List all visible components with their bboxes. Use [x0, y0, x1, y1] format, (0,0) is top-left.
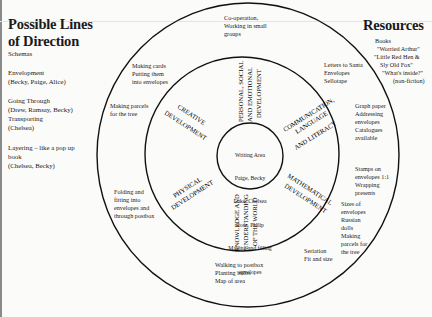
- centre-line: Making and filling: [220, 245, 280, 253]
- note-cll-top: Letters to Santa Envelopes Sellotape: [324, 61, 363, 85]
- centre-line: Luke, Chelsea: [220, 198, 280, 206]
- svg-text:DEVELOPMENT: DEVELOPMENT: [255, 69, 262, 118]
- note-kuw: Walking to postbox Planting bulbs Map of…: [215, 261, 263, 285]
- svg-text:PERSONAL, SOCIAL: PERSONAL, SOCIAL: [237, 61, 244, 122]
- area-pse-label: PERSONAL, SOCIAL AND EMOTIONAL DEVELOPME…: [237, 61, 262, 122]
- area-creative-label: CREATIVE DEVELOPMENT: [163, 103, 208, 141]
- note-math-side: Sizes of envelopes Russian dolls Making …: [341, 200, 367, 256]
- centre-line: Writing Area: [220, 152, 280, 160]
- note-pse: Co-operation, Working in small groups: [224, 14, 267, 38]
- area-cll-label: COMMUNICATION, LANGUAGE AND LITERACY: [282, 96, 338, 151]
- area-math-label: MATHEMATICAL DEVELOPMENT: [283, 172, 333, 214]
- note-math-top: Stamps on envelopes 1:1 Wrapping present…: [355, 165, 389, 197]
- note-creative-top: Making cards Putting them into envelopes: [132, 62, 168, 86]
- svg-text:AND EMOTIONAL: AND EMOTIONAL: [246, 67, 253, 122]
- centre-line: Paige, Becky: [220, 175, 280, 183]
- note-math-bottom: Seriation Fit and size: [304, 247, 333, 263]
- note-physical: Folding and fitting into envelopes and t…: [114, 188, 154, 220]
- note-creative-side: Making parcels for the tree: [110, 102, 148, 118]
- note-cll-side: Graph paper Addressing envelopes Catalog…: [355, 102, 386, 142]
- centre-line: Ross, Philip: [220, 222, 280, 230]
- area-physical-label: PHYSICAL DEVELOPMENT: [170, 175, 215, 210]
